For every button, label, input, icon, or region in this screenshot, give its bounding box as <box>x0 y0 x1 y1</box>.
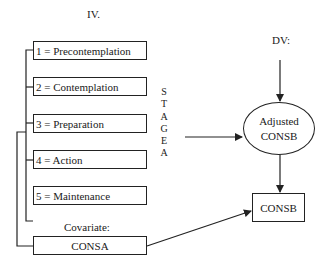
ellipse-line-2: CONSB <box>261 129 298 144</box>
stagea-letter: E <box>160 135 168 147</box>
stage-label: 4 = Action <box>36 154 83 166</box>
stagea-vertical-label: S T A G E A <box>160 86 168 160</box>
stage-bracket-outer <box>17 132 33 246</box>
dv-label: DV: <box>272 35 290 46</box>
stage-box-contemplation: 2 = Contemplation <box>33 77 147 96</box>
covariate-box-consa: CONSA <box>33 236 147 255</box>
stage-label: 1 = Precontemplation <box>36 45 131 57</box>
stage-label: 5 = Maintenance <box>36 190 110 202</box>
consb-label: CONSB <box>260 202 297 214</box>
stage-box-preparation: 3 = Preparation <box>33 114 147 133</box>
stagea-letter: G <box>160 123 168 135</box>
stagea-letter: S <box>160 86 168 98</box>
consa-label: CONSA <box>71 240 108 252</box>
stage-box-action: 4 = Action <box>33 150 147 169</box>
stage-label: 2 = Contemplation <box>36 81 119 93</box>
stagea-letter: A <box>160 111 168 123</box>
stagea-letter: A <box>160 147 168 159</box>
ellipse-line-1: Adjusted <box>259 114 299 129</box>
consa-to-consb-arrow <box>147 211 251 246</box>
stage-box-maintenance: 5 = Maintenance <box>33 186 147 205</box>
stage-bracket-inner <box>26 50 33 221</box>
outcome-box-consb: CONSB <box>252 193 305 222</box>
stagea-letter: T <box>160 98 168 110</box>
iv-label: IV. <box>87 9 100 20</box>
adjusted-consb-ellipse: Adjusted CONSB <box>243 102 315 155</box>
covariate-label: Covariate: <box>64 222 110 233</box>
stage-label: 3 = Preparation <box>36 118 104 130</box>
stage-box-precontemplation: 1 = Precontemplation <box>33 41 147 60</box>
